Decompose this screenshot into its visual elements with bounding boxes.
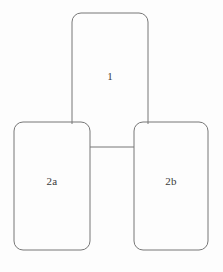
diagram-svg [0, 0, 223, 272]
node-1-shape[interactable] [72, 13, 148, 124]
node-2b-label: 2b [165, 176, 176, 187]
node-1-label: 1 [107, 71, 113, 82]
diagram-canvas: 1 2a 2b [0, 0, 223, 272]
node-2a-label: 2a [47, 176, 58, 187]
